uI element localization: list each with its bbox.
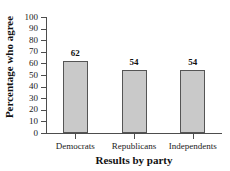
y-axis-tick-label: 30 — [18, 94, 38, 103]
bar-value-label: 54 — [114, 58, 154, 67]
y-axis-tick — [41, 121, 46, 122]
y-axis-tick — [41, 75, 46, 76]
x-axis-tick — [75, 134, 76, 139]
y-axis-tick — [41, 133, 46, 134]
bar — [180, 70, 205, 133]
x-axis-category-label: Independents — [163, 141, 222, 151]
bar — [122, 70, 147, 133]
y-axis-tick — [41, 63, 46, 64]
y-axis-title-text: Percentage who agree — [3, 16, 15, 118]
y-axis-tick-label: 70 — [18, 47, 38, 56]
y-axis-tick-label: 0 — [18, 129, 38, 138]
y-axis-tick — [41, 29, 46, 30]
y-axis-tick-label: 100 — [18, 13, 38, 22]
y-axis-tick — [41, 110, 46, 111]
y-axis-tick-label: 40 — [18, 82, 38, 91]
y-axis-tick — [41, 87, 46, 88]
y-axis-tick-label: 50 — [18, 71, 38, 80]
y-axis-tick — [41, 52, 46, 53]
x-axis-title: Results by party — [46, 154, 222, 166]
bar-chart: Percentage who agree 1009080706050403020… — [0, 0, 230, 171]
x-axis-category-label: Republicans — [105, 141, 164, 151]
bar-value-label: 54 — [173, 58, 213, 67]
y-axis-tick-label: 60 — [18, 59, 38, 68]
bar-value-label: 62 — [55, 49, 95, 58]
y-axis-tick — [41, 98, 46, 99]
y-axis-line — [46, 17, 47, 134]
y-axis-tick — [41, 40, 46, 41]
y-axis-tick-label: 80 — [18, 36, 38, 45]
x-axis-tick — [134, 134, 135, 139]
y-axis-tick-label: 90 — [18, 24, 38, 33]
bar — [63, 61, 88, 133]
y-axis-title: Percentage who agree — [0, 0, 18, 134]
y-axis-tick — [41, 17, 46, 18]
x-axis-tick — [193, 134, 194, 139]
y-axis-tick-label: 20 — [18, 105, 38, 114]
y-axis-tick-label: 10 — [18, 117, 38, 126]
x-axis-category-label: Democrats — [46, 141, 105, 151]
